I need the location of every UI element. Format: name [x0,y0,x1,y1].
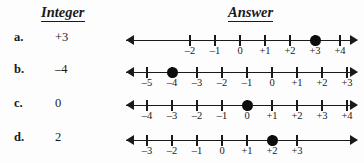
axis-tick-label: –2 [185,46,196,57]
axis-tick-label: +3 [291,146,302,157]
number-line[interactable]: –3–2–10+1+2+3 [126,131,357,157]
arrow-right-icon [350,67,358,77]
number-line[interactable]: –2–10+1+2+3+4 [126,31,357,57]
arrow-left-icon [126,135,134,145]
axis-tick-label: 0 [269,78,274,89]
number-line[interactable]: –5–4–3–2–10+1+2+3 [126,63,357,89]
arrow-left-icon [126,35,134,45]
integer-number-line-worksheet: Integer Answer a.+3b.–4c.0d.2 –2–10+1+2+… [0,0,364,163]
row-integer-value: +3 [55,30,68,45]
axis-tick-label: –2 [217,78,228,89]
axis-tick-label: +2 [284,46,295,57]
row-letter: d. [14,130,24,145]
axis-tick-label: –4 [167,78,178,89]
plotted-point-marker[interactable] [242,100,253,111]
column-header-answer-label: Answer [228,5,273,22]
row-letter: b. [14,62,24,77]
arrow-left-icon [126,100,134,110]
plotted-point-marker[interactable] [167,67,178,78]
axis-tick-label: –2 [192,111,203,122]
column-header-answer: Answer [228,3,273,22]
row-integer-value: 0 [55,96,61,111]
axis-tick-label: –1 [242,78,253,89]
axis-tick-label: 0 [219,146,224,157]
arrow-right-icon [350,100,358,110]
row-letter: c. [14,96,23,111]
axis-tick-label: –3 [192,78,203,89]
axis-tick-label: –4 [142,111,153,122]
column-header-integer-label: Integer [41,5,85,22]
row-integer-value: –4 [55,62,68,77]
axis-tick-label: +1 [291,78,302,89]
plotted-point-marker[interactable] [310,35,321,46]
arrow-left-icon [126,67,134,77]
axis-tick-label: +1 [259,46,270,57]
axis-tick-label: +2 [291,111,302,122]
column-header-integer: Integer [41,3,85,22]
axis-tick-label: –3 [142,146,153,157]
axis-tick-label: 0 [244,111,249,122]
arrow-right-icon [350,135,358,145]
axis-tick-label: –3 [167,111,178,122]
axis-tick-label: +1 [266,111,277,122]
number-line-axis [126,40,357,41]
axis-tick-label: –1 [192,146,203,157]
axis-tick-label: +4 [334,46,345,57]
axis-tick-label: +3 [316,111,327,122]
row-integer-value: 2 [55,130,61,145]
axis-tick-label: +2 [266,146,277,157]
row-letter: a. [14,30,23,45]
axis-tick-label: +4 [341,111,352,122]
axis-tick-label: +2 [316,78,327,89]
plotted-point-marker[interactable] [267,135,278,146]
axis-tick-label: +3 [341,78,352,89]
axis-tick-label: –5 [142,78,153,89]
number-line[interactable]: –4–3–2–10+1+2+3+4 [126,96,357,122]
axis-tick-label: –1 [217,111,228,122]
arrow-right-icon [350,35,358,45]
axis-tick-label: –2 [167,146,178,157]
axis-tick-label: +3 [309,46,320,57]
axis-tick-label: +1 [241,146,252,157]
axis-tick-label: 0 [237,46,242,57]
number-line-axis [126,140,357,141]
axis-tick-label: –1 [210,46,221,57]
